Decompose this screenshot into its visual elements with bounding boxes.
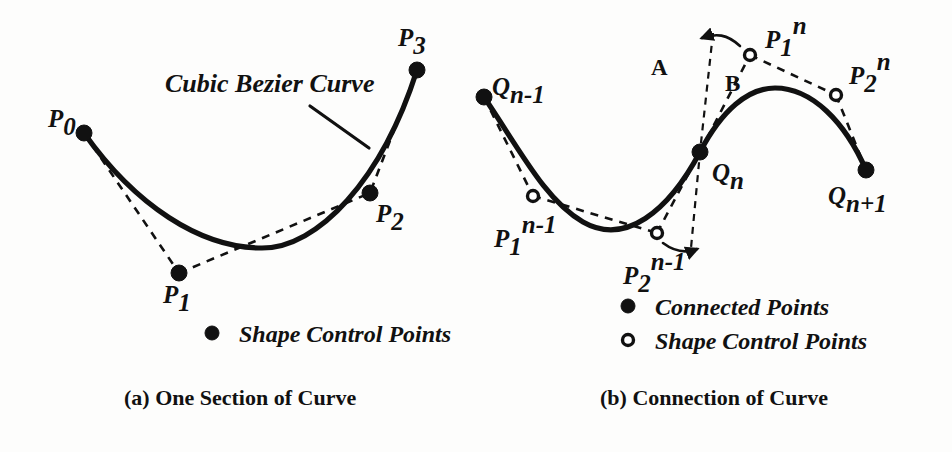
panel-a-caption: (a) One Section of Curve (124, 385, 356, 410)
panel-b-bezier-curve-right (700, 88, 866, 170)
label-sub-P1n: 1 (780, 34, 793, 61)
panel-a-point-marker-P0 (76, 125, 92, 141)
label-sup-P1n: n (793, 12, 807, 39)
label-base-P3: P (397, 24, 414, 51)
svg-text:Qn-1: Qn-1 (492, 73, 545, 108)
label-base-Qn+1: Q (828, 182, 846, 209)
label-base-P2: P (375, 200, 392, 227)
panel-b-point-marker-P1n-1 (528, 191, 539, 202)
svg-text:P2n-1: P2n-1 (622, 248, 686, 297)
panel-b-bezier-curve-left (484, 97, 700, 230)
panel-b-point-marker-P1n (745, 50, 756, 61)
panel-a-point-marker-P1 (171, 265, 187, 281)
panel-b-point-marker-Qn-1 (476, 89, 492, 105)
label-base-P2n: P (848, 62, 865, 89)
panel-b-point-label-P2n: P2n (848, 48, 891, 97)
panel-b-point-label-Qn: Qn (712, 159, 744, 194)
panel-b-legend-label-1: Shape Control Points (655, 328, 867, 354)
bezier-figure: Cubic Bezier Curve P0 P1 P2 (0, 0, 952, 452)
label-base-P0: P (47, 105, 64, 132)
svg-text:P1n-1: P1n-1 (493, 211, 557, 260)
label-sub-P3: 3 (412, 32, 426, 59)
label-base-Qn-1: Q (492, 73, 510, 100)
panel-b-legend-label-0: Connected Points (655, 294, 829, 320)
bezier-diagram-svg: Cubic Bezier Curve P0 P1 P2 (0, 0, 952, 452)
label-base-P1n-1: P (493, 225, 510, 252)
panel-a-group: Cubic Bezier Curve P0 P1 P2 (47, 24, 451, 410)
svg-text:P2n: P2n (848, 48, 891, 97)
panel-b-point-label-P1n: P1n (764, 12, 807, 61)
label-sup-P2n-1: n-1 (651, 248, 686, 275)
panel-b-adjust-arrow-top (702, 35, 740, 46)
label-sup-P2n: n (877, 48, 891, 75)
panel-b-point-marker-Qn+1 (858, 162, 874, 178)
panel-b-tangent-line-A (691, 33, 713, 248)
label-base-P1n: P (764, 26, 781, 53)
panel-b-group: A B Qn-1 P1n-1 P2n-1 Qn (476, 12, 891, 410)
panel-b-point-marker-P2n-1 (652, 228, 663, 239)
label-sub-P1: 1 (178, 289, 191, 316)
panel-a-legend-label-0: Shape Control Points (239, 321, 451, 347)
panel-b-legend-open-dot-icon (623, 335, 634, 346)
label-sub-P2: 2 (390, 208, 404, 235)
label-base-Qn: Q (712, 159, 730, 186)
label-sub-P2n-1: 2 (637, 270, 651, 297)
panel-b-tangent-label-B: B (725, 71, 740, 96)
svg-text:P0: P0 (47, 105, 76, 140)
label-base-P1: P (162, 281, 179, 308)
panel-b-point-marker-P2n (831, 90, 842, 101)
panel-a-legend: Shape Control Points (205, 321, 451, 347)
panel-a-point-marker-P3 (409, 62, 425, 78)
panel-b-point-label-Qn-1: Qn-1 (492, 73, 545, 108)
panel-a-point-label-P0: P0 (47, 105, 76, 140)
svg-text:P1: P1 (162, 281, 191, 316)
label-sub-P2n: 2 (863, 70, 877, 97)
panel-b-point-label-P2n-1: P2n-1 (622, 248, 686, 297)
panel-b-tangent-label-A: A (651, 55, 668, 80)
label-sub-Qn: n (730, 167, 744, 194)
panel-b-legend-filled-dot-icon (621, 299, 635, 313)
label-sub-Qn-1: n-1 (510, 81, 545, 108)
svg-text:Qn: Qn (712, 159, 744, 194)
label-base-P2n-1: P (622, 262, 639, 289)
panel-a-point-label-P3: P3 (397, 24, 426, 59)
svg-text:P2: P2 (375, 200, 404, 235)
panel-b-legend: Connected Points Shape Control Points (621, 294, 867, 354)
label-sub-P1n-1: 1 (509, 233, 522, 260)
label-sub-Qn+1: n+1 (846, 190, 887, 217)
svg-text:P1n: P1n (764, 12, 807, 61)
panel-a-point-marker-P2 (362, 185, 378, 201)
panel-a-annotation-leader-line (310, 106, 369, 148)
panel-a-legend-filled-dot-icon (205, 326, 219, 340)
svg-text:P3: P3 (397, 24, 426, 59)
panel-b-point-label-P1n-1: P1n-1 (493, 211, 557, 260)
panel-a-point-label-P1: P1 (162, 281, 191, 316)
panel-b-caption: (b) Connection of Curve (600, 385, 828, 410)
label-sup-P1n-1: n-1 (522, 211, 557, 238)
panel-b-point-marker-Qn (692, 144, 708, 160)
panel-a-annotation-label: Cubic Bezier Curve (165, 69, 374, 98)
panel-b-point-label-Qn+1: Qn+1 (828, 182, 887, 217)
svg-text:Qn+1: Qn+1 (828, 182, 887, 217)
panel-a-point-label-P2: P2 (375, 200, 404, 235)
label-sub-P0: 0 (63, 113, 76, 140)
